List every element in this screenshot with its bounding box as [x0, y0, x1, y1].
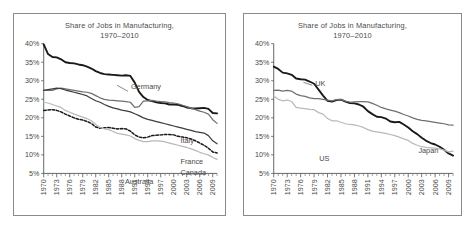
- series-label-uk: UK: [315, 79, 325, 88]
- x-axis-tick-label: 1985: [105, 179, 113, 195]
- panel-right-plot: 5%10%15%20%25%30%35%40%19701973197619791…: [244, 14, 461, 215]
- series-line-us: [274, 96, 453, 152]
- x-axis-tick-label: 1979: [311, 179, 319, 195]
- y-axis-tick-label: 25%: [25, 96, 40, 104]
- chart-panel-left: Share of Jobs in Manufacturing, 1970–201…: [13, 13, 226, 216]
- x-axis-tick-label: 2006: [432, 179, 440, 195]
- y-axis-tick-label: 15%: [25, 133, 40, 141]
- y-axis-tick-label: 30%: [25, 77, 40, 85]
- x-axis-tick-label: 1997: [157, 179, 165, 195]
- x-axis-tick-label: 1982: [324, 179, 332, 195]
- chart-panel-right: Share of Jobs in Manufacturing, 1970–201…: [243, 13, 462, 216]
- y-axis-tick-label: 10%: [25, 151, 40, 159]
- x-axis-tick-label: 1976: [297, 179, 305, 195]
- series-label-france: France: [180, 158, 203, 167]
- series-label-germany: Germany: [131, 82, 161, 91]
- x-axis-tick-label: 2003: [183, 179, 191, 195]
- x-axis-tick-label: 1988: [351, 179, 359, 195]
- y-axis-tick-label: 10%: [255, 151, 270, 159]
- x-axis-tick-label: 2000: [405, 179, 413, 195]
- panel-left-plot: 5%10%15%20%25%30%35%40%19701973197619791…: [14, 14, 225, 215]
- x-axis-tick-label: 1970: [270, 179, 278, 195]
- series-label-canada: Canada: [180, 168, 207, 177]
- series-line-canada: [44, 110, 217, 153]
- x-axis-tick-label: 1994: [378, 179, 386, 195]
- y-axis-tick-label: 5%: [259, 170, 270, 178]
- y-axis-tick-label: 40%: [255, 40, 270, 48]
- x-axis-tick-label: 2003: [418, 179, 426, 195]
- x-axis-tick-label: 1976: [66, 179, 74, 195]
- x-axis-tick-label: 1982: [92, 179, 100, 195]
- x-axis-tick-label: 1973: [284, 179, 292, 195]
- y-axis-tick-label: 40%: [25, 40, 40, 48]
- x-axis-tick-label: 1991: [364, 179, 372, 195]
- series-label-us: US: [319, 154, 329, 163]
- y-axis-tick-label: 15%: [255, 133, 270, 141]
- x-axis-tick-label: 1997: [391, 179, 399, 195]
- y-axis-tick-label: 30%: [255, 77, 270, 85]
- x-axis-tick-label: 2009: [445, 179, 453, 195]
- series-label-japan: Japan: [418, 146, 438, 155]
- x-axis-tick-label: 2009: [209, 179, 217, 195]
- y-axis-tick-label: 25%: [255, 96, 270, 104]
- series-line-italy: [44, 88, 217, 123]
- series-line-uk: [274, 67, 453, 156]
- figure-container: Share of Jobs in Manufacturing, 1970–201…: [0, 0, 473, 234]
- y-axis-tick-label: 35%: [255, 59, 270, 67]
- x-axis-tick-label: 1973: [53, 179, 61, 195]
- series-label-italy: Italy: [180, 136, 194, 145]
- series-label-australia: Australia: [125, 177, 154, 186]
- y-axis-tick-label: 20%: [255, 114, 270, 122]
- x-axis-tick-label: 1979: [79, 179, 87, 195]
- x-axis-tick-label: 1970: [40, 179, 48, 195]
- y-axis-tick-label: 5%: [29, 170, 40, 178]
- y-axis-tick-label: 20%: [25, 114, 40, 122]
- x-axis-tick-label: 2006: [196, 179, 204, 195]
- y-axis-tick-label: 35%: [25, 59, 40, 67]
- x-axis-tick-label: 1985: [338, 179, 346, 195]
- x-axis-tick-label: 2000: [170, 179, 178, 195]
